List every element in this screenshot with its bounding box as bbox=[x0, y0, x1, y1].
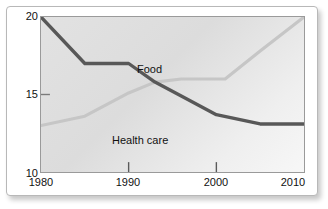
y-axis-tick-label-15: 15 bbox=[8, 89, 38, 100]
series-canvas bbox=[41, 17, 304, 172]
series-label-health-care: Health care bbox=[112, 134, 168, 146]
series-line-food bbox=[41, 17, 304, 124]
chart-card: Food Health care 20 15 10 1980 1990 2000… bbox=[6, 6, 318, 196]
chart-figure: Food Health care 20 15 10 1980 1990 2000… bbox=[7, 7, 319, 197]
x-axis-tick-label-2010: 2010 bbox=[273, 176, 313, 188]
y-axis-tick-label-20: 20 bbox=[8, 11, 38, 22]
plot-area: Food Health care bbox=[40, 16, 305, 173]
x-axis-tick-label-1990: 1990 bbox=[108, 176, 148, 188]
cropped-title-fragment bbox=[0, 0, 328, 3]
series-line-health-care bbox=[41, 17, 304, 126]
y-axis: 20 15 10 bbox=[7, 16, 38, 173]
series-label-food: Food bbox=[137, 63, 162, 75]
x-axis-tick-label-1980: 1980 bbox=[21, 176, 61, 188]
x-axis-tick-label-2000: 2000 bbox=[196, 176, 236, 188]
x-axis: 1980 1990 2000 2010 bbox=[7, 176, 319, 194]
